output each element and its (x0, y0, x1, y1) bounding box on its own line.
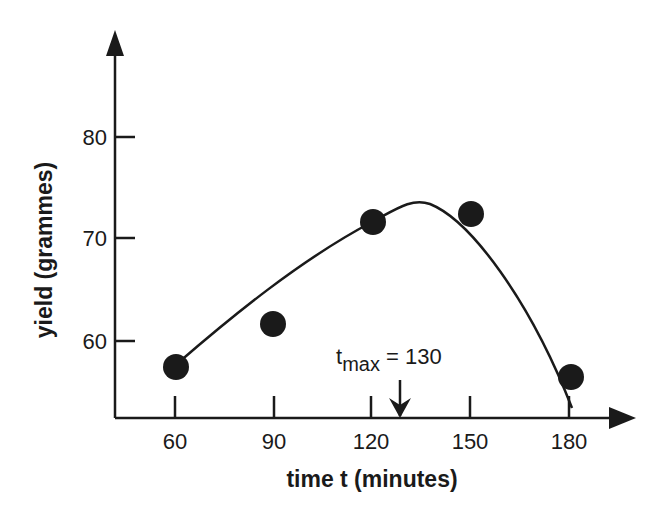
data-point-150 (458, 201, 484, 227)
y-axis-arrow-icon (106, 30, 124, 56)
data-point-180 (558, 364, 584, 390)
x-axis-arrow-icon (609, 407, 636, 429)
data-point-90 (260, 311, 286, 337)
x-ticks (175, 396, 569, 418)
x-tick-label-180: 180 (551, 429, 588, 454)
chart-canvas: 80 70 60 60 90 120 150 180 time t (minut… (0, 0, 663, 519)
data-point-60 (163, 354, 189, 380)
y-tick-label-70: 70 (83, 226, 107, 251)
y-axis-title: yield (grammes) (31, 162, 57, 338)
x-tick-label-90: 90 (262, 429, 286, 454)
x-tick-label-150: 150 (452, 429, 489, 454)
y-tick-label-60: 60 (83, 329, 107, 354)
x-tick-label-120: 120 (353, 429, 390, 454)
y-tick-label-80: 80 (83, 125, 107, 150)
x-tick-label-60: 60 (163, 429, 187, 454)
y-ticks (115, 137, 135, 341)
data-point-120 (360, 209, 386, 235)
x-axis-title: time t (minutes) (286, 466, 457, 492)
tmax-annotation: tmax = 130 (336, 344, 442, 375)
